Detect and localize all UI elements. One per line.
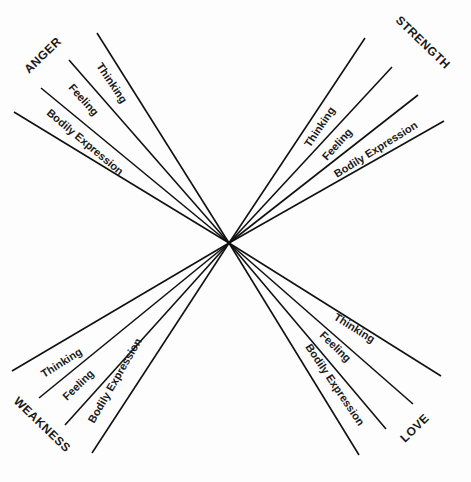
category-weakness: WEAKNESS xyxy=(11,394,73,455)
anger-line-3 xyxy=(41,88,229,243)
strength-label-feeling: Feeling xyxy=(320,126,355,163)
anger-label-thinking: Thinking xyxy=(94,60,130,105)
category-anger: ANGER xyxy=(21,34,64,76)
category-strength: STRENGTH xyxy=(393,13,453,72)
anger-line-4 xyxy=(14,112,229,243)
weakness-line-1 xyxy=(12,243,229,371)
weakness-label-bodily: Bodily Expression xyxy=(85,336,144,425)
emotion-diagram: ANGER STRENGTH WEAKNESS LOVE Thinking Fe… xyxy=(0,0,471,482)
weakness-line-2 xyxy=(39,243,229,398)
love-line-2 xyxy=(229,243,413,404)
weakness-line-3 xyxy=(65,243,229,425)
anger-label-bodily: Bodily Expression xyxy=(45,106,126,177)
diagram-canvas: ANGER STRENGTH WEAKNESS LOVE Thinking Fe… xyxy=(0,0,471,482)
anger-lines xyxy=(14,33,229,243)
weakness-line-4 xyxy=(92,243,229,453)
anger-line-1 xyxy=(97,33,229,243)
love-line-1 xyxy=(229,243,441,376)
category-love: LOVE xyxy=(397,411,432,445)
